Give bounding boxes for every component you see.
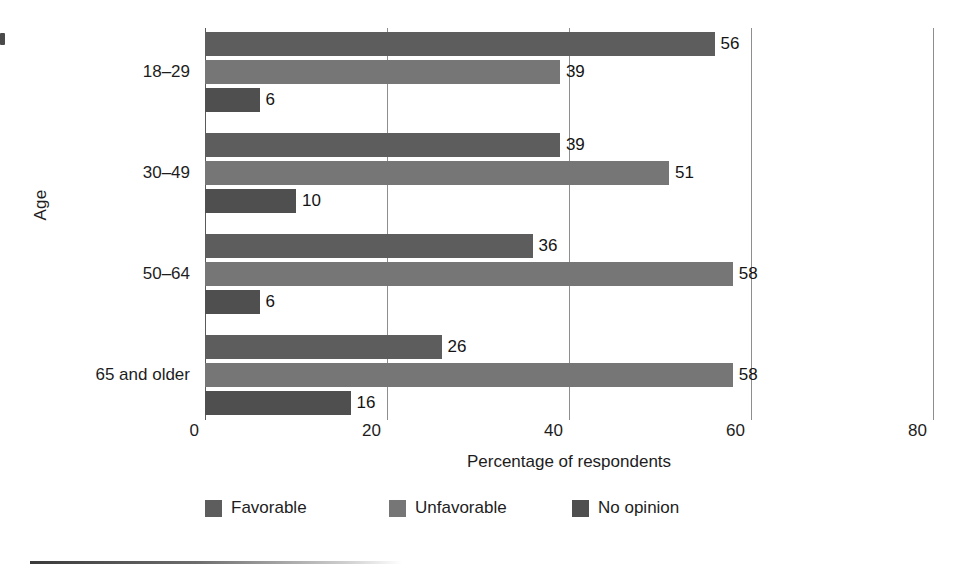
bar-chart-figure: Age 18–2930–4950–6465 and older 56396395… [0,0,963,575]
bar-row: 58 [205,262,933,286]
bar-no-opinion[interactable] [205,391,351,415]
bar-unfavorable[interactable] [205,262,733,286]
category-label-3: 50–64 [0,264,190,284]
bar-value-label: 58 [739,264,758,284]
x-axis-title: Percentage of respondents [205,452,933,472]
bar-unfavorable[interactable] [205,161,669,185]
x-tick-label-80: 80 [829,420,927,442]
bar-row: 39 [205,60,933,84]
legend-label: Unfavorable [415,498,507,518]
bar-value-label: 26 [448,337,467,357]
legend-label: No opinion [598,498,679,518]
plot-area: 5639639511036586265816 [205,28,933,420]
bar-group: 36586 [205,234,933,314]
legend-swatch-icon [572,500,589,517]
legend-item-favorable[interactable]: Favorable [205,496,307,520]
x-tick-label-60: 60 [647,420,745,442]
bar-row: 16 [205,391,933,415]
bar-row: 6 [205,290,933,314]
bar-row: 26 [205,335,933,359]
bar-no-opinion[interactable] [205,189,296,213]
bar-row: 10 [205,189,933,213]
bar-favorable[interactable] [205,32,715,56]
bar-value-label: 10 [302,191,321,211]
legend-item-no-opinion[interactable]: No opinion [572,496,679,520]
bar-value-label: 36 [539,236,558,256]
chart-legend: FavorableUnfavorableNo opinion [205,496,825,522]
x-tick-label-40: 40 [465,420,563,442]
x-tick-label-0: 0 [101,420,199,442]
category-label-2: 30–49 [0,163,190,183]
x-axis-tick-labels: 020406080 [0,420,963,454]
legend-swatch-icon [389,500,406,517]
bar-row: 39 [205,133,933,157]
bar-row: 6 [205,88,933,112]
bar-value-label: 39 [566,135,585,155]
bar-favorable[interactable] [205,335,442,359]
legend-swatch-icon [205,500,222,517]
bar-value-label: 51 [675,163,694,183]
bar-group: 265816 [205,335,933,415]
legend-label: Favorable [231,498,307,518]
bar-value-label: 16 [357,393,376,413]
bar-no-opinion[interactable] [205,290,260,314]
page-footer-rule [30,561,402,564]
bar-unfavorable[interactable] [205,363,733,387]
bar-value-label: 56 [721,34,740,54]
bar-favorable[interactable] [205,234,533,258]
bar-value-label: 6 [266,90,275,110]
bar-favorable[interactable] [205,133,560,157]
category-axis-labels: 18–2930–4950–6465 and older [0,28,190,420]
x-tick-label-20: 20 [283,420,381,442]
bar-row: 56 [205,32,933,56]
bar-group: 56396 [205,32,933,112]
gridline-80 [933,28,934,420]
bar-row: 36 [205,234,933,258]
bar-group: 395110 [205,133,933,213]
category-label-1: 18–29 [0,62,190,82]
bar-row: 58 [205,363,933,387]
legend-item-unfavorable[interactable]: Unfavorable [389,496,507,520]
category-label-4: 65 and older [0,365,190,385]
bar-unfavorable[interactable] [205,60,560,84]
bar-row: 51 [205,161,933,185]
bar-no-opinion[interactable] [205,88,260,112]
bar-value-label: 58 [739,365,758,385]
bar-value-label: 6 [266,292,275,312]
bar-value-label: 39 [566,62,585,82]
